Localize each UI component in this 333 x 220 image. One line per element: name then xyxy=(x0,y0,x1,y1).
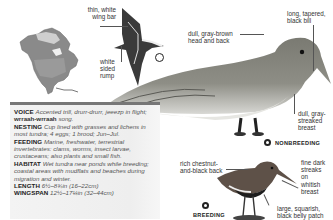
callout-text: wing bar xyxy=(68,13,116,20)
info-key-nesting: NESTING xyxy=(14,123,42,130)
breeding-label: BREEDING xyxy=(193,212,225,218)
callout-text: rich chestnut- xyxy=(180,160,222,167)
info-length: LENGTH 6½–8¾in (16–22cm) xyxy=(14,182,159,189)
callout-text: breast xyxy=(298,124,326,131)
callout-text: whitish xyxy=(301,181,325,188)
callout-breeding-back: rich chestnut- and-black back xyxy=(180,160,222,174)
info-value-length: 6½–8¾in (16–22cm) xyxy=(42,182,99,189)
callout-text: streaked xyxy=(298,117,326,124)
callout-streaks: fine dark streaks on whitish breast xyxy=(301,159,325,195)
callout-belly: large, squarish, black belly patch xyxy=(277,205,324,219)
range-map xyxy=(8,20,88,100)
info-value-voice: Accented trill, drurr-drurr, xyxy=(36,108,104,115)
nonbreeding-symbol-icon xyxy=(264,139,271,146)
callout-text: dull, gray- xyxy=(298,110,326,117)
info-value-wingspan: 12½–17¼in (32–44cm) xyxy=(50,189,114,196)
info-key-wingspan: WINGSPAN xyxy=(14,189,48,196)
info-voice: VOICE Accented trill, drurr-drurr, jeeez… xyxy=(14,108,159,123)
callout-text: head and back xyxy=(188,37,233,44)
info-key-voice: VOICE xyxy=(14,108,34,115)
callout-text: black bill xyxy=(287,17,326,24)
callout-text: and-black back xyxy=(180,167,222,174)
info-key-length: LENGTH xyxy=(14,182,40,189)
info-wingspan: WINGSPAN 12½–17¼in (32–44cm) xyxy=(14,189,159,196)
callout-text: fine dark xyxy=(301,159,325,166)
info-nesting: NESTING Cup lined with grasses and liche… xyxy=(14,123,159,138)
callout-text: large, squarish, xyxy=(277,205,324,212)
leader-line xyxy=(294,94,295,114)
callout-text: dull, gray-brown xyxy=(188,30,233,37)
leader-line xyxy=(226,169,248,170)
callout-text: streaks xyxy=(301,166,325,173)
info-key-feeding: FEEDING xyxy=(14,138,42,145)
north-america-map-icon xyxy=(8,20,88,100)
callout-bill: long, tapered, black bill xyxy=(287,10,326,24)
nonbreeding-label: NONBREEDING xyxy=(275,140,320,146)
info-value-voice-song: wrraah-wrraah xyxy=(14,115,57,122)
info-habitat: HABITAT Wet tundra near ponds while bree… xyxy=(14,160,159,182)
info-value-voice: jeeezp in flight; xyxy=(106,108,147,115)
callout-text: thin, white xyxy=(68,6,116,13)
callout-wing-bar: thin, white wing bar xyxy=(68,6,116,20)
breeding-symbol-icon xyxy=(202,202,209,209)
callout-text: breast xyxy=(301,188,325,195)
info-key-habitat: HABITAT xyxy=(14,160,41,167)
callout-text: on xyxy=(301,173,325,180)
callout-breast: dull, gray- streaked breast xyxy=(298,110,326,132)
leader-line xyxy=(313,25,314,71)
species-info-text: VOICE Accented trill, drurr-drurr, jeeez… xyxy=(14,108,159,197)
callout-text: black belly patch xyxy=(277,212,324,219)
info-feeding: FEEDING Marine, freshwater, terrestrial … xyxy=(14,138,159,160)
leader-line xyxy=(240,34,264,35)
info-value-voice: song. xyxy=(58,115,73,122)
callout-head: dull, gray-brown head and back xyxy=(188,30,233,44)
callout-text: long, tapered, xyxy=(287,10,326,17)
